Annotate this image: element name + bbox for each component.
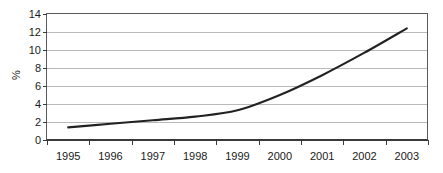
y-axis-tick-label: 14 — [29, 8, 41, 20]
y-axis-title: % — [10, 70, 22, 80]
y-axis-tick-label: 8 — [35, 62, 41, 74]
x-axis-tick-label: 1998 — [183, 150, 207, 162]
x-axis-tick-label: 1995 — [56, 150, 80, 162]
x-axis-tick-label: 2002 — [352, 150, 376, 162]
x-axis-tick-label: 2000 — [268, 150, 292, 162]
x-axis-tick-label: 1999 — [225, 150, 249, 162]
y-axis-tick-label: 6 — [35, 80, 41, 92]
y-axis-tick-label: 4 — [35, 98, 41, 110]
y-axis-tick-label: 12 — [29, 26, 41, 38]
y-axis-tick-label: 0 — [35, 134, 41, 146]
x-axis-tick-label: 1996 — [98, 150, 122, 162]
x-axis-tick-label: 2001 — [310, 150, 334, 162]
x-axis-tick-label: 1997 — [141, 150, 165, 162]
y-axis-tick-label: 10 — [29, 44, 41, 56]
y-axis-tick-label: 2 — [35, 116, 41, 128]
x-axis-tick-label: 2003 — [395, 150, 419, 162]
line-chart: 14121086420 1995199619971998199920002001… — [0, 0, 443, 173]
chart-canvas: 14121086420 1995199619971998199920002001… — [0, 0, 443, 173]
x-axis-tick-labels: 199519961997199819992000200120022003 — [56, 150, 419, 162]
